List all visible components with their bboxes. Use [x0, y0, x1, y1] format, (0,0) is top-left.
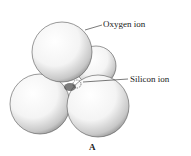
figure-caption: A	[89, 142, 96, 152]
oxygen-leader-line	[85, 25, 102, 30]
oxygen-ion-bottom-right	[67, 75, 129, 137]
oxygen-ion-bottom-left	[10, 74, 70, 134]
silicon-ion-label: Silicon ion	[130, 74, 169, 84]
oxygen-ion-top	[32, 22, 92, 82]
oxygen-ion-label: Oxygen ion	[103, 19, 145, 29]
shadow-center	[64, 83, 76, 91]
